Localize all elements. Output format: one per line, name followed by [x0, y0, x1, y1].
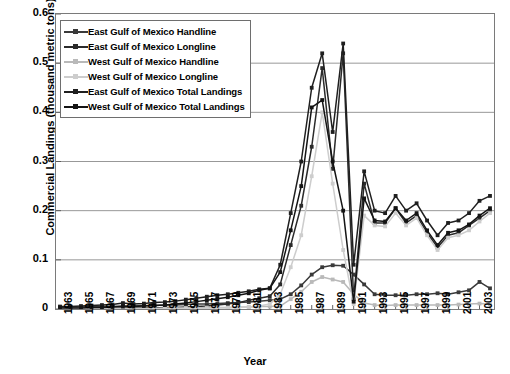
y-axis-ticks: 0.60.50.40.30.20.10: [18, 0, 48, 374]
series-marker: [457, 290, 461, 294]
x-tick-label: 1997: [420, 292, 431, 314]
series-marker: [394, 293, 398, 297]
series-marker: [310, 174, 314, 178]
series-marker: [373, 224, 377, 228]
y-tick-label: 0.5: [22, 56, 48, 67]
x-tick-label: 1965: [84, 292, 95, 314]
series-marker: [341, 280, 345, 284]
series-marker: [457, 219, 461, 223]
legend-swatch-icon: [64, 71, 88, 82]
series-marker: [184, 301, 188, 305]
series-marker: [373, 209, 377, 213]
legend-swatch-icon: [64, 41, 88, 52]
series-marker: [331, 160, 335, 164]
series-marker: [121, 301, 125, 305]
x-tick-label: 1993: [378, 292, 389, 314]
series-marker: [289, 265, 293, 269]
x-tick-label: 1991: [357, 292, 368, 314]
series-marker: [415, 303, 419, 307]
x-tick-label: 1981: [252, 292, 263, 314]
series-marker: [247, 291, 251, 295]
series-marker: [205, 307, 209, 309]
legend-label: West Gulf of Mexico Longline: [88, 71, 218, 82]
series-marker: [278, 270, 282, 274]
series-marker: [436, 243, 440, 247]
y-tick-label: 0.4: [22, 105, 48, 116]
series-marker: [394, 206, 398, 210]
series-marker: [457, 228, 461, 232]
legend-label: West Gulf of Mexico Total Landings: [88, 101, 245, 112]
series-marker: [362, 283, 366, 287]
x-tick-label: 1989: [336, 292, 347, 314]
legend-item: East Gulf of Mexico Total Landings: [64, 84, 245, 99]
series-marker: [383, 211, 387, 215]
series-marker: [310, 86, 314, 90]
series-marker: [383, 225, 387, 229]
series-marker: [268, 298, 272, 302]
series-marker: [289, 243, 293, 247]
series-marker: [121, 305, 125, 309]
series-marker: [488, 206, 492, 210]
series-marker: [404, 224, 408, 228]
series-marker: [268, 294, 272, 298]
series-marker: [341, 209, 345, 213]
series-marker: [142, 304, 146, 308]
series-marker: [488, 194, 492, 198]
legend-swatch-icon: [64, 26, 88, 37]
y-tick-label: 0: [22, 302, 48, 313]
series-marker: [289, 211, 293, 215]
series-marker: [415, 201, 419, 205]
series-marker: [373, 303, 377, 307]
series-marker: [488, 211, 492, 215]
series-marker: [163, 303, 167, 307]
series-marker: [299, 233, 303, 237]
chart-figure: Commercial Landings (thousand metric ton…: [0, 0, 510, 374]
series-marker: [226, 295, 230, 299]
x-tick-label: 1999: [441, 292, 452, 314]
y-tick-label: 0.3: [22, 155, 48, 166]
series-marker: [425, 219, 429, 223]
legend-item: West Gulf of Mexico Total Landings: [64, 99, 245, 114]
series-marker: [268, 286, 272, 290]
legend-item: East Gulf of Mexico Longline: [64, 39, 245, 54]
legend-item: East Gulf of Mexico Handline: [64, 24, 245, 39]
x-tick-label: 2001: [462, 292, 473, 314]
series-marker: [404, 219, 408, 223]
series-marker: [394, 303, 398, 307]
series-marker: [467, 228, 471, 232]
x-tick-label: 1979: [231, 292, 242, 314]
series-marker: [205, 295, 209, 299]
series-marker: [331, 130, 335, 134]
y-tick-label: 0.1: [22, 253, 48, 264]
series-marker: [299, 204, 303, 208]
series-marker: [331, 182, 335, 186]
x-tick-label: 1969: [126, 292, 137, 314]
series-marker: [310, 145, 314, 149]
series-marker: [425, 233, 429, 237]
legend-swatch-icon: [64, 86, 88, 97]
series-marker: [247, 305, 251, 309]
series-marker: [184, 307, 188, 309]
legend-label: East Gulf of Mexico Total Landings: [88, 86, 242, 97]
x-tick-label: 1987: [315, 292, 326, 314]
legend-swatch-icon: [64, 101, 88, 112]
series-marker: [79, 306, 83, 309]
series-marker: [299, 284, 303, 288]
x-tick-label: 1975: [189, 292, 200, 314]
series-marker: [446, 221, 450, 225]
series-marker: [331, 263, 335, 267]
series-marker: [373, 292, 377, 296]
series-marker: [478, 302, 482, 306]
series-marker: [331, 278, 335, 282]
series-marker: [310, 273, 314, 277]
series-marker: [446, 236, 450, 240]
series-marker: [100, 306, 104, 309]
series-marker: [394, 211, 398, 215]
series-marker: [415, 292, 419, 296]
series-marker: [320, 98, 324, 102]
series-marker: [478, 199, 482, 203]
series-marker: [341, 264, 345, 268]
series-marker: [58, 306, 62, 309]
y-tick-label: 0.6: [22, 7, 48, 18]
series-marker: [289, 292, 293, 296]
